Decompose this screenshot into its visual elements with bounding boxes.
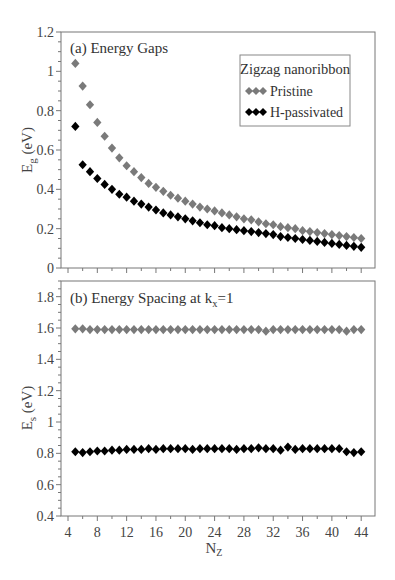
diamond-marker-icon	[152, 183, 160, 192]
diamond-marker-icon	[320, 238, 328, 247]
panel-b-title-prefix: (b) Energy Spacing at k	[70, 290, 213, 307]
y-tick-label: 0.8	[37, 446, 55, 461]
diamond-marker-icon	[306, 444, 314, 453]
diamond-marker-icon	[232, 225, 240, 234]
diamond-marker-icon	[328, 239, 336, 248]
legend-label-pristine: Pristine	[270, 84, 313, 99]
diamond-marker-icon	[137, 325, 145, 334]
diamond-marker-icon	[342, 232, 350, 241]
panel-b-title-suffix: =1	[217, 290, 233, 306]
diamond-marker-icon	[218, 223, 226, 232]
diamond-marker-icon	[342, 447, 350, 456]
diamond-marker-icon	[298, 325, 306, 334]
x-tick-label: 12	[120, 525, 134, 540]
y-tick-label: 0.4	[37, 182, 55, 197]
diamond-marker-icon	[101, 132, 109, 141]
panel-b-title: (b) Energy Spacing at kx=1	[70, 290, 233, 309]
legend-marker-h-passivated-icon	[245, 108, 267, 116]
diamond-marker-icon	[71, 122, 79, 131]
x-tick-label: 36	[296, 525, 310, 540]
diamond-marker-icon	[71, 324, 79, 333]
diamond-marker-icon	[174, 194, 182, 203]
diamond-marker-icon	[350, 325, 358, 334]
diamond-marker-icon	[313, 228, 321, 237]
diamond-marker-icon	[291, 234, 299, 243]
diamond-marker-icon	[276, 446, 284, 455]
diamond-marker-icon	[298, 444, 306, 453]
panel-a-title: (a) Energy Gaps	[70, 40, 168, 57]
diamond-marker-icon	[269, 220, 277, 229]
diamond-marker-icon	[350, 242, 358, 251]
diamond-marker-icon	[313, 325, 321, 334]
x-tick-label: 28	[237, 525, 251, 540]
diamond-marker-icon	[225, 224, 233, 233]
diamond-marker-icon	[225, 210, 233, 219]
diamond-marker-icon	[320, 229, 328, 238]
y-tick-label: 0.8	[37, 104, 55, 119]
diamond-marker-icon	[328, 325, 336, 334]
diamond-marker-icon	[174, 325, 182, 334]
y-tick-label: 0	[47, 261, 54, 276]
y-tick-label: 1.8	[37, 290, 55, 305]
diamond-marker-icon	[284, 223, 292, 232]
diamond-marker-icon	[203, 444, 211, 453]
x-tick-label: 44	[354, 525, 368, 540]
diamond-marker-icon	[240, 214, 248, 223]
diamond-marker-icon	[144, 179, 152, 188]
diamond-marker-icon	[159, 444, 167, 453]
diamond-marker-icon	[93, 325, 101, 334]
x-axis-title: NZ	[206, 540, 223, 558]
diamond-marker-icon	[254, 325, 262, 334]
diamond-marker-icon	[254, 217, 262, 226]
diamond-marker-icon	[144, 325, 152, 334]
diamond-marker-icon	[232, 445, 240, 454]
diamond-marker-icon	[101, 180, 109, 189]
x-tick-label: 32	[266, 525, 280, 540]
diamond-marker-icon	[130, 167, 138, 176]
diamond-marker-icon	[166, 191, 174, 200]
diamond-marker-icon	[137, 199, 145, 208]
diamond-marker-icon	[276, 222, 284, 231]
diamond-marker-icon	[166, 444, 174, 453]
diamond-marker-icon	[79, 448, 87, 457]
panel-a-y-axis: 00.20.40.60.811.2	[37, 25, 62, 276]
diamond-marker-icon	[137, 445, 145, 454]
x-tick-label: 20	[178, 525, 192, 540]
diamond-marker-icon	[357, 234, 365, 243]
diamond-marker-icon	[342, 241, 350, 250]
ylabel-a-unit: (eV)	[19, 127, 36, 158]
diamond-marker-icon	[306, 236, 314, 245]
diamond-marker-icon	[123, 325, 131, 334]
diamond-marker-icon	[284, 233, 292, 242]
diamond-marker-icon	[313, 444, 321, 453]
diamond-marker-icon	[130, 325, 138, 334]
diamond-marker-icon	[152, 445, 160, 454]
diamond-marker-icon	[240, 325, 248, 334]
panel-b-data-points	[71, 324, 365, 457]
diamond-marker-icon	[196, 202, 204, 211]
diamond-marker-icon	[93, 118, 101, 127]
diamond-marker-icon	[350, 233, 358, 242]
diamond-marker-icon	[196, 218, 204, 227]
diamond-marker-icon	[86, 100, 94, 109]
diamond-marker-icon	[291, 325, 299, 334]
diamond-marker-icon	[247, 215, 255, 224]
diamond-marker-icon	[210, 206, 218, 215]
diamond-marker-icon	[225, 444, 233, 453]
diamond-marker-icon	[144, 202, 152, 211]
diamond-marker-icon	[130, 445, 138, 454]
diamond-marker-icon	[276, 232, 284, 241]
ylabel-b-main: E	[19, 421, 35, 430]
diamond-marker-icon	[357, 447, 365, 456]
diamond-marker-icon	[108, 143, 116, 152]
diamond-marker-icon	[357, 243, 365, 252]
diamond-marker-icon	[108, 446, 116, 455]
diamond-marker-icon	[137, 173, 145, 182]
diamond-marker-icon	[254, 228, 262, 237]
diamond-marker-icon	[298, 235, 306, 244]
diamond-marker-icon	[144, 444, 152, 453]
chart-canvas: 00.20.40.60.811.2 (a) Energy Gaps Eg (eV…	[0, 0, 395, 580]
diamond-marker-icon	[335, 444, 343, 453]
diamond-marker-icon	[86, 447, 94, 456]
diamond-marker-icon	[123, 161, 131, 170]
